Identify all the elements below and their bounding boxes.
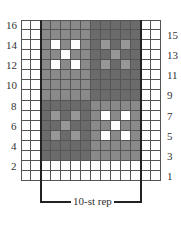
chart-cell <box>41 40 51 50</box>
chart-cell <box>101 90 111 100</box>
chart-cell <box>61 131 71 141</box>
chart-cell <box>41 80 51 90</box>
chart-cell <box>91 151 101 161</box>
chart-cell <box>151 161 161 171</box>
chart-cell <box>41 171 51 181</box>
chart-cell <box>111 60 121 70</box>
chart-cell <box>101 111 111 121</box>
chart-cell <box>151 141 161 151</box>
chart-cell <box>41 131 51 141</box>
chart-cell <box>51 151 61 161</box>
chart-cell <box>91 121 101 131</box>
row-number-label: 1 <box>167 171 173 182</box>
chart-cell <box>101 101 111 111</box>
chart-cell <box>61 90 71 100</box>
chart-cell <box>141 131 151 141</box>
chart-cell <box>121 171 131 181</box>
chart-cell <box>121 161 131 171</box>
chart-cell <box>51 30 61 40</box>
chart-cell <box>151 151 161 161</box>
chart-cell <box>121 30 131 40</box>
chart-cell <box>141 161 151 171</box>
chart-cell <box>41 101 51 111</box>
chart-cell <box>91 30 101 40</box>
chart-cell <box>121 121 131 131</box>
chart-cell <box>81 111 91 121</box>
chart-cell <box>41 161 51 171</box>
chart-cell <box>21 90 31 100</box>
chart-cell <box>81 40 91 50</box>
chart-cell <box>81 20 91 30</box>
chart-cell <box>141 111 151 121</box>
row-number-label: 3 <box>167 151 173 162</box>
chart-cell <box>91 171 101 181</box>
chart-cell <box>101 161 111 171</box>
chart-cell <box>51 80 61 90</box>
chart-cell <box>71 70 81 80</box>
chart-cell <box>71 131 81 141</box>
chart-cell <box>141 20 151 30</box>
chart-cell <box>71 40 81 50</box>
chart-cell <box>61 50 71 60</box>
chart-cell <box>51 171 61 181</box>
chart-cell <box>51 50 61 60</box>
chart-cell <box>101 40 111 50</box>
chart-cell <box>91 101 101 111</box>
chart-cell <box>91 131 101 141</box>
chart-cell <box>81 141 91 151</box>
chart-cell <box>41 151 51 161</box>
chart-cell <box>111 141 121 151</box>
chart-cell <box>151 70 161 80</box>
chart-cell <box>151 90 161 100</box>
chart-cell <box>151 121 161 131</box>
chart-cell <box>21 171 31 181</box>
chart-cell <box>61 161 71 171</box>
chart-cell <box>121 101 131 111</box>
chart-cell <box>91 40 101 50</box>
chart-cell <box>21 80 31 90</box>
chart-cell <box>121 151 131 161</box>
chart-cell <box>41 20 51 30</box>
chart-cell <box>51 161 61 171</box>
chart-cell <box>101 50 111 60</box>
repeat-boundary-right <box>140 20 142 203</box>
chart-cell <box>41 60 51 70</box>
chart-cell <box>21 20 31 30</box>
chart-cell <box>81 30 91 40</box>
chart-cell <box>71 30 81 40</box>
chart-cell <box>141 70 151 80</box>
chart-cell <box>91 20 101 30</box>
chart-cell <box>101 30 111 40</box>
chart-cell <box>61 60 71 70</box>
chart-cell <box>71 111 81 121</box>
chart-cell <box>141 60 151 70</box>
chart-cell <box>111 20 121 30</box>
row-number-label: 16 <box>6 20 17 31</box>
chart-cell <box>151 30 161 40</box>
chart-cell <box>101 121 111 131</box>
chart-cell <box>111 30 121 40</box>
chart-cell <box>61 20 71 30</box>
repeat-label: 10-st rep <box>71 196 114 207</box>
chart-cell <box>91 90 101 100</box>
chart-cell <box>21 121 31 131</box>
chart-cell <box>51 111 61 121</box>
row-number-label: 6 <box>11 121 17 132</box>
chart-cell <box>141 40 151 50</box>
row-number-label: 8 <box>11 101 17 112</box>
chart-cell <box>61 70 71 80</box>
chart-cell <box>121 60 131 70</box>
chart-cell <box>151 171 161 181</box>
chart-cell <box>81 90 91 100</box>
chart-cell <box>121 111 131 121</box>
chart-cell <box>81 70 91 80</box>
chart-cell <box>61 111 71 121</box>
chart-cell <box>51 60 61 70</box>
chart-cell <box>111 171 121 181</box>
chart-cell <box>81 50 91 60</box>
chart-cell <box>111 40 121 50</box>
chart-cell <box>71 80 81 90</box>
chart-cell <box>81 101 91 111</box>
chart-cell <box>21 40 31 50</box>
chart-cell <box>101 171 111 181</box>
